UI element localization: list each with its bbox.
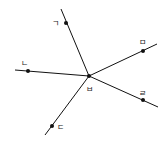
- ray-rieul: [89, 76, 158, 107]
- label-digeut: ㄷ: [57, 123, 64, 132]
- point-giyeok: [64, 21, 68, 25]
- ray-mieum: [89, 44, 157, 76]
- label-nieun: ㄴ: [21, 59, 28, 68]
- point-nieun: [26, 69, 30, 73]
- point-rieul: [141, 98, 145, 102]
- point-mieum: [141, 49, 145, 53]
- ray-diagram: ㅂ ㄱ ㅁ ㄴ ㄹ ㄷ: [0, 0, 165, 148]
- label-center: ㅂ: [86, 85, 93, 94]
- ray-giyeok: [61, 9, 89, 76]
- point-center: [87, 74, 91, 78]
- label-mieum: ㅁ: [139, 38, 146, 47]
- label-rieul: ㄹ: [139, 89, 146, 98]
- label-giyeok: ㄱ: [52, 19, 59, 28]
- point-digeut: [50, 124, 54, 128]
